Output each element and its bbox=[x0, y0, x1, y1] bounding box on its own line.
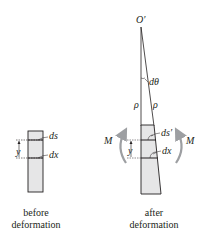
before-caption-line1: before bbox=[23, 207, 49, 218]
moment-arrow-right bbox=[176, 133, 182, 163]
rho-left-label: ρ bbox=[133, 99, 139, 110]
before-dx-label: dx bbox=[49, 149, 59, 160]
moment-arrow-left bbox=[120, 133, 126, 163]
before-deformation-figure: y ds dx before deformation bbox=[12, 130, 61, 230]
after-dx-label: dx bbox=[162, 145, 172, 156]
dtheta-label: dθ bbox=[149, 76, 159, 87]
after-y-label: y bbox=[127, 145, 133, 156]
after-caption-line2: deformation bbox=[130, 219, 179, 230]
moment-right-label: M bbox=[185, 135, 195, 146]
rho-right-label: ρ bbox=[152, 99, 158, 110]
ds-prime-label: ds′ bbox=[161, 127, 173, 138]
moment-left-label: M bbox=[103, 135, 113, 146]
after-caption-line1: after bbox=[145, 207, 164, 218]
after-deformation-figure: O′ dθ ρ ρ ds′ dx y M M after deformation bbox=[103, 14, 195, 230]
dtheta-arc bbox=[141, 78, 145, 79]
bending-deformation-diagram: y ds dx before deformation O′ dθ ρ ρ bbox=[0, 0, 206, 240]
center-o-prime-label: O′ bbox=[136, 14, 146, 25]
before-caption-line2: deformation bbox=[12, 219, 61, 230]
before-y-label: y bbox=[15, 146, 21, 157]
before-ds-label: ds bbox=[49, 130, 58, 141]
